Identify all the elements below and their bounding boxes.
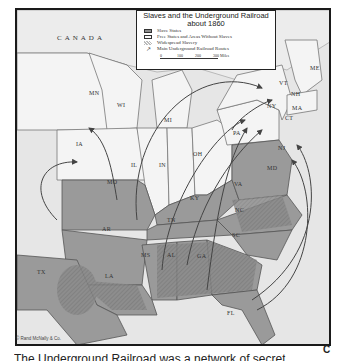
svg-text:NH: NH bbox=[291, 91, 301, 97]
slave-states-swatch bbox=[144, 29, 152, 33]
svg-text:KY: KY bbox=[190, 195, 200, 201]
svg-text:CT: CT bbox=[285, 115, 293, 121]
map-credit: © Rand McNally & Co. bbox=[16, 336, 61, 341]
svg-text:MO: MO bbox=[107, 179, 118, 185]
svg-text:WI: WI bbox=[117, 102, 125, 108]
svg-text:CANADA: CANADA bbox=[57, 34, 105, 42]
legend-label: Main Underground Railroad Routes bbox=[157, 46, 229, 52]
route-arrow-icon: ↗ bbox=[144, 46, 152, 52]
widespread-slavery-swatch bbox=[144, 41, 152, 45]
free-states-swatch bbox=[144, 35, 152, 39]
svg-text:VT: VT bbox=[279, 80, 288, 86]
scale-bar: 0 100 200 300 Miles bbox=[160, 53, 272, 61]
legend-row-routes: ↗ Main Underground Railroad Routes bbox=[144, 46, 272, 52]
svg-text:AL: AL bbox=[167, 252, 176, 258]
svg-text:MN: MN bbox=[89, 90, 100, 96]
svg-text:IL: IL bbox=[131, 162, 137, 168]
figure-caption: The Underground Railroad was a network o… bbox=[14, 352, 285, 364]
map-legend: Slaves and the Underground Railroad abou… bbox=[136, 10, 276, 70]
svg-text:NJ: NJ bbox=[278, 145, 286, 151]
legend-subtitle: about 1860 bbox=[140, 20, 272, 28]
svg-text:GA: GA bbox=[197, 253, 207, 259]
svg-text:FL: FL bbox=[227, 310, 235, 316]
svg-text:MS: MS bbox=[141, 252, 150, 258]
svg-text:LA: LA bbox=[105, 273, 114, 279]
svg-text:OH: OH bbox=[193, 151, 203, 157]
svg-text:NY: NY bbox=[267, 103, 277, 109]
svg-text:VA: VA bbox=[234, 181, 243, 187]
svg-text:TN: TN bbox=[167, 217, 176, 223]
svg-text:MA: MA bbox=[292, 105, 303, 111]
answer-choice-letter: C bbox=[323, 344, 330, 355]
svg-text:MI: MI bbox=[164, 117, 172, 123]
svg-text:ME: ME bbox=[310, 65, 320, 71]
svg-text:NC: NC bbox=[235, 207, 244, 213]
svg-text:AR: AR bbox=[102, 226, 111, 232]
svg-text:MD: MD bbox=[267, 165, 278, 171]
svg-text:TX: TX bbox=[37, 269, 46, 275]
svg-text:PA: PA bbox=[233, 130, 241, 136]
svg-text:IA: IA bbox=[76, 141, 83, 147]
scale-line bbox=[160, 58, 218, 59]
svg-text:SC: SC bbox=[232, 232, 240, 238]
svg-text:IN: IN bbox=[159, 162, 166, 168]
